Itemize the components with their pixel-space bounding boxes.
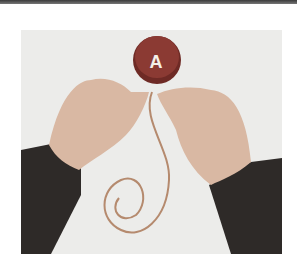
top-border-rule	[0, 0, 297, 4]
button-label: A	[130, 52, 182, 73]
left-hand	[49, 79, 149, 170]
right-hand	[157, 87, 251, 185]
